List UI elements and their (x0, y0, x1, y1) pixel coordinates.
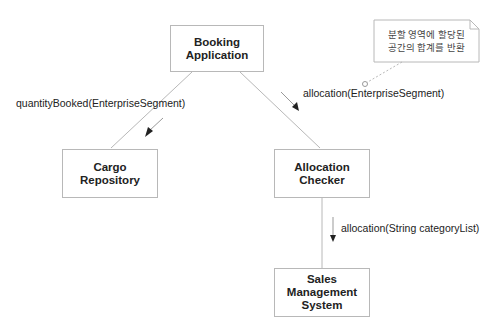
note: 분할 영역에 할당된 공간의 합계를 반환 (374, 20, 479, 62)
link-booking-cargo (111, 72, 192, 148)
object-label: Sales (287, 273, 357, 286)
object-booking-application[interactable]: Booking Application (170, 25, 264, 72)
object-label: Checker (294, 174, 350, 187)
object-sales-management-system[interactable]: Sales Management System (274, 268, 370, 317)
message-arrow-quantitybooked (145, 118, 163, 137)
object-allocation-checker[interactable]: Allocation Checker (274, 149, 370, 198)
object-label: Repository (80, 174, 140, 187)
object-label: Application (186, 49, 249, 62)
message-label-quantitybooked: quantityBooked(EnterpriseSegment) (16, 97, 185, 109)
object-label: Management (287, 286, 357, 299)
message-arrow-allocation-category (330, 217, 336, 242)
note-anchor-circle (363, 82, 368, 87)
object-label: Booking (186, 36, 249, 49)
note-text-line: 공간의 합계를 반환 (388, 41, 465, 54)
object-label: Allocation (294, 161, 350, 174)
note-anchor-line (366, 62, 402, 83)
message-label-allocation-segment: allocation(EnterpriseSegment) (303, 87, 444, 99)
note-text-line: 분할 영역에 할당된 (388, 28, 465, 41)
object-label: System (287, 299, 357, 312)
link-booking-allocation (240, 72, 320, 148)
message-arrow-allocation-segment (281, 92, 299, 111)
message-label-allocation-category: allocation(String categoryList) (341, 222, 479, 234)
object-cargo-repository[interactable]: Cargo Repository (62, 149, 158, 198)
object-label: Cargo (80, 161, 140, 174)
